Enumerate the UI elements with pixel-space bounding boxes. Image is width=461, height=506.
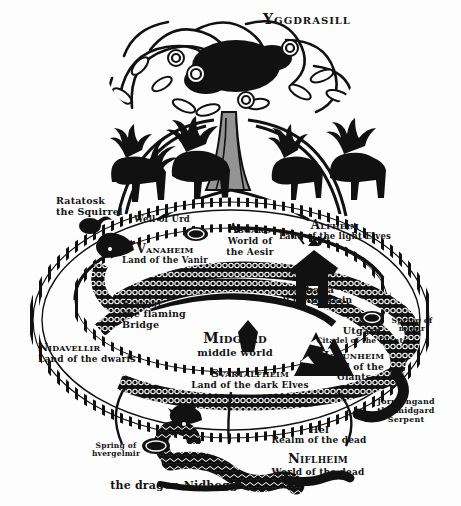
label-nidavellir-title: Nidavellir (38, 342, 156, 354)
label-valhalla-subtitle: hall of the slain (256, 295, 366, 305)
label-hel-title: Hel (264, 424, 374, 435)
label-alfheim-subtitle: Land of the light Elves (275, 232, 395, 242)
label-midgard-subtitle: middle world (180, 347, 290, 358)
label-svartalfheim-title: Svartalfheim (182, 368, 318, 380)
label-yggdrasill: Yggdrasill (248, 12, 366, 28)
label-valhalla-title: Valhalla (256, 284, 366, 295)
label-alfheim-title: Alfheim (275, 219, 395, 232)
label-spring-of-hvergelmir: Spring of hvergelmir (78, 442, 154, 459)
stag (326, 118, 386, 200)
label-spring-of-mimir-subtitle: mimir (376, 325, 448, 333)
label-alfheim: Alfheim Land of the light Elves (275, 219, 395, 242)
label-utgard-subtitle: Citadel of the Giants (312, 337, 412, 345)
label-nidhogg-title: the dragon Nidhogg (100, 480, 248, 492)
label-jotunheim-subtitle: Land of theGiants (306, 362, 402, 382)
label-nidavellir-subtitle: Land of the dwarfs (38, 354, 156, 364)
label-niflheim: Niflheim World of the dead (262, 452, 374, 477)
label-svartalfheim: Svartalfheim Land of the dark Elves (182, 368, 318, 390)
label-spring-of-hvergelmir-subtitle: hvergelmir (78, 450, 154, 458)
label-vanaheim-subtitle: Land of the Vanir (110, 256, 220, 266)
label-bifrost: Bifrost the flamingBridge (122, 298, 206, 330)
label-niflheim-title: Niflheim (262, 452, 374, 467)
well-of-urd-icon (184, 227, 208, 241)
label-jotunheim-title: Jotunheim (306, 350, 402, 362)
label-hel: Hel Realm of the dead (264, 424, 374, 445)
label-valhalla: Valhalla hall of the slain (256, 284, 366, 305)
label-well-of-urd-title: Well of Urd (112, 215, 212, 225)
label-jormungand: Jormungand the midgardSerpent (354, 397, 458, 424)
label-bifrost-subtitle: the flamingBridge (122, 309, 206, 330)
label-spring-of-mimir: Spring of mimir (376, 317, 448, 334)
label-svartalfheim-subtitle: Land of the dark Elves (182, 380, 318, 390)
label-vanaheim-title: Vanaheim (110, 243, 220, 256)
yggdrasill-diagram: Yggdrasill Ratatosk the Squirrel Well of… (0, 0, 461, 506)
label-hel-subtitle: Realm of the dead (264, 435, 374, 445)
label-well-of-urd: Well of Urd (112, 215, 212, 225)
label-midgard-title: Midgard (180, 331, 290, 347)
label-yggdrasill-title: Yggdrasill (248, 12, 366, 28)
label-jormungand-subtitle: the midgardSerpent (354, 406, 458, 424)
label-niflheim-subtitle: World of the dead (262, 467, 374, 477)
label-nidavellir: Nidavellir Land of the dwarfs (38, 342, 156, 364)
label-nidhogg: the dragon Nidhogg (100, 480, 248, 492)
label-midgard: Midgard middle world (180, 331, 290, 358)
label-jotunheim: Jotunheim Land of theGiants (306, 350, 402, 382)
label-vanaheim: Vanaheim Land of the Vanir (110, 243, 220, 266)
